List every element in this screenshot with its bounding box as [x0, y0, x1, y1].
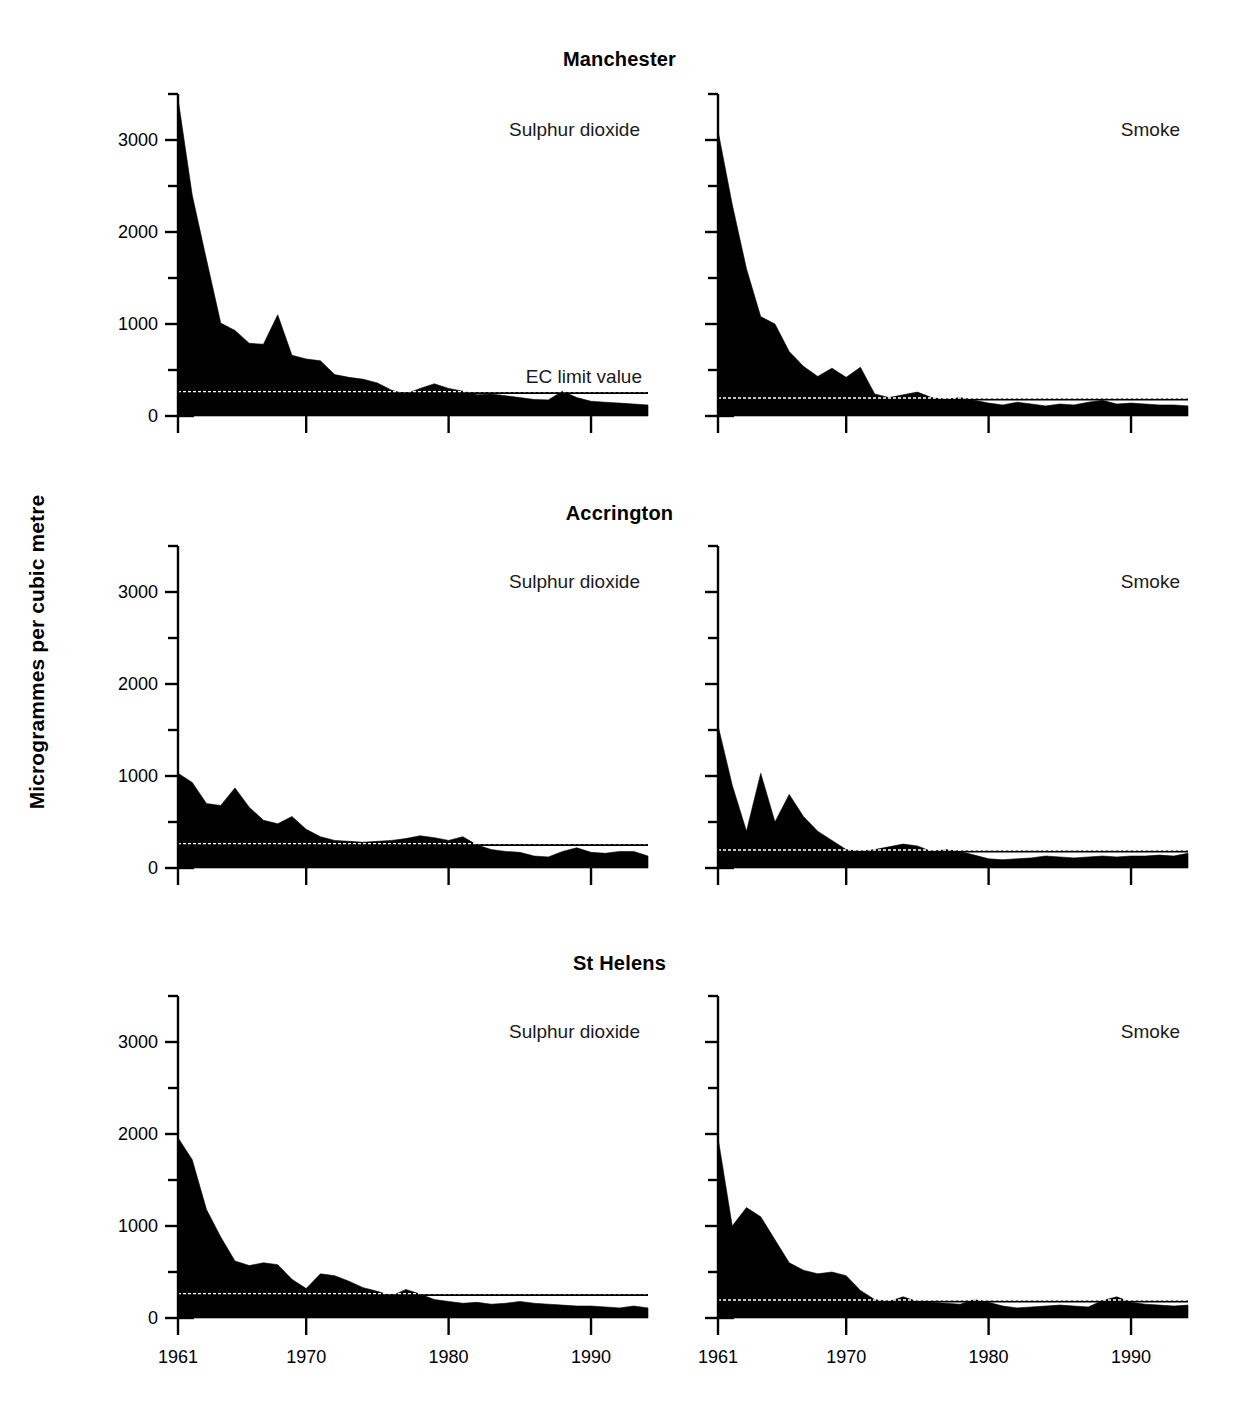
- series-label: Sulphur dioxide: [509, 571, 640, 592]
- panel-manchester-smoke: Smoke: [640, 80, 1200, 480]
- x-axis-tick-label: 1990: [571, 1347, 611, 1367]
- chart-area: 1961197019801990Smoke: [640, 982, 1200, 1382]
- chart-area: 01000200030001961197019801990Sulphur dio…: [100, 982, 660, 1382]
- y-axis-tick-label: 0: [148, 1308, 158, 1328]
- panel-st-helens-smoke: 1961197019801990Smoke: [640, 982, 1200, 1382]
- panel-accrington-smoke: Smoke: [640, 532, 1200, 932]
- x-axis-tick-label: 1980: [429, 1347, 469, 1367]
- chart-area: 0100020003000Sulphur dioxide: [100, 532, 660, 932]
- panel-title-accrington: Accrington: [0, 502, 1239, 525]
- series-area-sulphur-dioxide: [178, 773, 648, 868]
- x-axis-tick-label: 1980: [969, 1347, 1009, 1367]
- y-axis-tick-label: 1000: [118, 766, 158, 786]
- x-axis-tick-label: 1970: [826, 1347, 866, 1367]
- y-axis-tick-label: 2000: [118, 674, 158, 694]
- series-label: Sulphur dioxide: [509, 1021, 640, 1042]
- series-label: Smoke: [1121, 571, 1180, 592]
- ec-limit-annotation: EC limit value: [526, 366, 642, 387]
- pollution-multi-panel-figure: Microgrammes per cubic metre Manchester …: [0, 0, 1239, 1428]
- y-axis-tick-label: 1000: [118, 1216, 158, 1236]
- series-label: Smoke: [1121, 1021, 1180, 1042]
- series-area-smoke: [718, 725, 1188, 868]
- series-area-smoke: [718, 1138, 1188, 1318]
- y-axis-tick-label: 0: [148, 858, 158, 878]
- panel-title-st-helens: St Helens: [0, 952, 1239, 975]
- panel-accrington-sulphur-dioxide: 0100020003000Sulphur dioxide: [100, 532, 660, 932]
- y-axis-tick-label: 1000: [118, 314, 158, 334]
- panel-manchester-sulphur-dioxide: 0100020003000Sulphur dioxideEC limit val…: [100, 80, 660, 480]
- y-axis-tick-label: 3000: [118, 130, 158, 150]
- chart-area: 0100020003000Sulphur dioxideEC limit val…: [100, 80, 660, 480]
- y-axis-tick-label: 3000: [118, 582, 158, 602]
- series-area-smoke: [718, 131, 1188, 416]
- series-label: Sulphur dioxide: [509, 119, 640, 140]
- y-axis-tick-label: 3000: [118, 1032, 158, 1052]
- x-axis-tick-label: 1961: [698, 1347, 738, 1367]
- y-axis-tick-label: 2000: [118, 1124, 158, 1144]
- x-axis-tick-label: 1961: [158, 1347, 198, 1367]
- panel-title-manchester: Manchester: [0, 48, 1239, 71]
- y-axis-tick-label: 0: [148, 406, 158, 426]
- series-label: Smoke: [1121, 119, 1180, 140]
- y-axis-tick-label: 2000: [118, 222, 158, 242]
- x-axis-tick-label: 1970: [286, 1347, 326, 1367]
- y-axis-label: Microgrammes per cubic metre: [25, 492, 49, 812]
- x-axis-tick-label: 1990: [1111, 1347, 1151, 1367]
- chart-area: Smoke: [640, 532, 1200, 932]
- panel-st-helens-sulphur-dioxide: 01000200030001961197019801990Sulphur dio…: [100, 982, 660, 1382]
- series-area-sulphur-dioxide: [178, 1138, 648, 1318]
- chart-area: Smoke: [640, 80, 1200, 480]
